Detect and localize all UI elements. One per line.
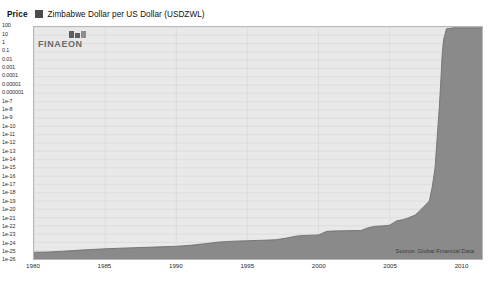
y-tick-label: 0.001 [0, 65, 31, 70]
y-tick-label: 1e-18 [0, 190, 31, 195]
y-tick-label: 0.01 [0, 57, 31, 62]
plot-area: Source: Global Financial Data [33, 26, 483, 260]
chart-legend: Price Zimbabwe Dollar per US Dollar (USD… [7, 7, 205, 21]
y-tick-label: 1e-15 [0, 165, 31, 170]
y-tick-label: 1e-11 [0, 132, 31, 137]
y-tick-label: 1e-12 [0, 140, 31, 145]
y-tick-label: 1e-20 [0, 207, 31, 212]
chart-container: Price Zimbabwe Dollar per US Dollar (USD… [0, 0, 490, 285]
x-tick-label: 1990 [169, 262, 183, 269]
y-tick-label: 1e-13 [0, 149, 31, 154]
y-tick-label: 1e-16 [0, 174, 31, 179]
y-tick-label: 1e-10 [0, 124, 31, 129]
y-axis: 1001010.10.010.0010.00010.000010.0000011… [0, 26, 31, 260]
legend-color-swatch [35, 10, 43, 18]
y-tick-label: 100 [0, 23, 31, 28]
y-tick-label: 1e-21 [0, 216, 31, 221]
x-axis: 1980198519901995200020052010 [0, 262, 490, 276]
y-tick-label: 1e-9 [0, 115, 31, 120]
y-tick-label: 0.1 [0, 48, 31, 53]
y-tick-label: 1e-24 [0, 241, 31, 246]
y-tick-label: 10 [0, 32, 31, 37]
plot-surface [34, 27, 482, 259]
x-tick-label: 1985 [98, 262, 112, 269]
y-tick-label: 1e-23 [0, 232, 31, 237]
y-tick-label: 0.00001 [0, 82, 31, 87]
legend-series-label: Zimbabwe Dollar per US Dollar (USDZWL) [48, 10, 205, 19]
y-tick-label: 1e-22 [0, 224, 31, 229]
source-attribution: Source: Global Financial Data [396, 248, 474, 254]
y-tick-label: 1e-19 [0, 199, 31, 204]
y-tick-label: 0.000001 [0, 90, 31, 95]
x-tick-label: 1980 [26, 262, 40, 269]
y-tick-label: 1e-14 [0, 157, 31, 162]
y-tick-label: 1 [0, 40, 31, 45]
x-tick-label: 1995 [240, 262, 254, 269]
y-tick-label: 1e-17 [0, 182, 31, 187]
y-tick-label: 1e-7 [0, 99, 31, 104]
x-tick-label: 2000 [312, 262, 326, 269]
y-tick-label: 1e-8 [0, 107, 31, 112]
y-tick-label: 0.0001 [0, 73, 31, 78]
y-tick-label: 1e-25 [0, 249, 31, 254]
legend-price-label: Price [7, 10, 28, 19]
series-area-zimbabwe-dollar [34, 27, 482, 259]
x-tick-label: 2010 [455, 262, 469, 269]
x-tick-label: 2005 [383, 262, 397, 269]
